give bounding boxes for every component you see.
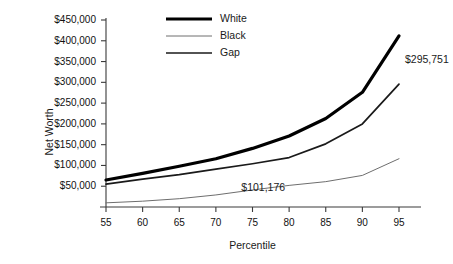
x-axis-tick-label: 90 — [357, 218, 368, 228]
data-annotation: $295,751 — [405, 54, 449, 65]
y-axis-title: Net Worth — [43, 87, 55, 177]
series-line-white — [106, 36, 399, 180]
x-axis-tick-label: 95 — [393, 218, 404, 228]
data-annotation: $101,176 — [241, 182, 285, 193]
x-axis-tick-label: 75 — [247, 218, 258, 228]
x-axis-tick-label: 60 — [137, 218, 148, 228]
chart-container: $50,000$100,000$150,000$200,000$250,000$… — [0, 0, 453, 264]
legend-item-gap[interactable]: Gap — [220, 47, 240, 58]
x-axis-title: Percentile — [229, 239, 276, 251]
x-axis-tick-label: 70 — [210, 218, 221, 228]
x-axis-tick-label: 85 — [320, 218, 331, 228]
y-axis-tick-label: $50,000 — [0, 181, 96, 191]
data-series-lines — [106, 36, 399, 203]
legend-item-black[interactable]: Black — [220, 30, 246, 41]
x-axis-tick-label: 80 — [284, 218, 295, 228]
legend-item-white[interactable]: White — [220, 13, 247, 24]
legend-swatches — [166, 19, 212, 53]
y-axis-tick-label: $400,000 — [0, 36, 96, 46]
y-axis-tick-label: $450,000 — [0, 15, 96, 25]
x-axis-tick-label: 65 — [174, 218, 185, 228]
y-axis-tick-label: $300,000 — [0, 77, 96, 87]
y-axis-tick-label: $350,000 — [0, 57, 96, 67]
x-axis-tick-label: 55 — [100, 218, 111, 228]
